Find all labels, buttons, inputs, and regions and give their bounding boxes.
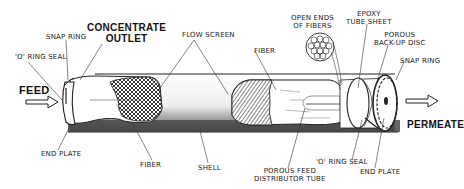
label-end-plate-right: END PLATE bbox=[360, 168, 400, 176]
label-o-ring-seal-left: 'O' RING SEAL bbox=[15, 53, 67, 61]
label-epoxy-line2: TUBE SHEET bbox=[346, 18, 392, 26]
label-epoxy-tube-sheet: EPOXY TUBE SHEET bbox=[346, 10, 392, 26]
label-open-ends: OPEN ENDS OF FIBERS bbox=[291, 14, 334, 30]
label-porous-backup-disc: POROUS BACK-UP DISC bbox=[374, 31, 426, 47]
label-concentrate-outlet: CONCENTRATE OUTLET bbox=[87, 22, 166, 44]
label-feed: FEED bbox=[19, 85, 50, 96]
label-porous-backup-line2: BACK-UP DISC bbox=[374, 39, 426, 47]
label-porous-feed-distributor: POROUS FEED DISTRIBUTOR TUBE bbox=[254, 167, 326, 183]
middle-cutaway bbox=[232, 80, 342, 125]
label-epoxy-line1: EPOXY bbox=[346, 10, 392, 18]
label-porous-backup-line1: POROUS bbox=[374, 31, 426, 39]
label-open-ends-line1: OPEN ENDS bbox=[291, 14, 334, 22]
label-fiber-top: FIBER bbox=[254, 47, 275, 55]
right-end-assembly bbox=[340, 75, 397, 131]
label-open-ends-line2: OF FIBERS bbox=[291, 22, 334, 30]
label-flow-screen: FLOW SCREEN bbox=[182, 31, 235, 39]
feed-arrow-icon bbox=[26, 96, 58, 108]
label-concentrate-line1: CONCENTRATE bbox=[87, 22, 166, 33]
permeate-arrow-icon bbox=[406, 95, 438, 107]
label-concentrate-line2: OUTLET bbox=[87, 33, 166, 44]
label-o-ring-seal-right: 'O' RING SEAL bbox=[316, 158, 368, 166]
label-snap-ring-left: SNAP RING bbox=[46, 33, 86, 41]
label-end-plate-left: END PLATE bbox=[41, 150, 81, 158]
membrane-module-diagram bbox=[0, 0, 464, 189]
label-porous-feed-line2: DISTRIBUTOR TUBE bbox=[254, 175, 326, 183]
left-cutaway bbox=[63, 76, 162, 125]
label-fiber-bottom: FIBER bbox=[140, 161, 161, 169]
label-shell: SHELL bbox=[198, 164, 221, 172]
label-permeate: PERMEATE bbox=[407, 119, 464, 130]
label-snap-ring-right: SNAP RING bbox=[400, 57, 440, 65]
label-porous-feed-line1: POROUS FEED bbox=[254, 167, 326, 175]
